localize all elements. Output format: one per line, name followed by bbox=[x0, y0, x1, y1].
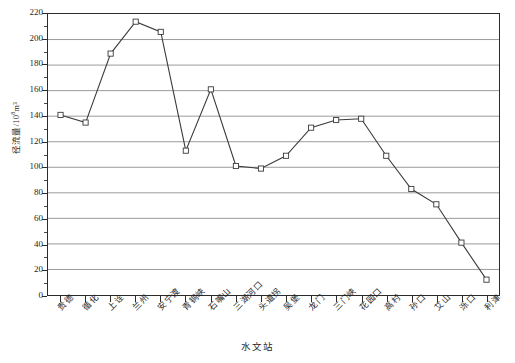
y-tick-label: 80 bbox=[9, 188, 43, 197]
data-point-marker bbox=[434, 202, 439, 207]
y-tick-label: 160 bbox=[9, 85, 43, 94]
y-tick-label: 100 bbox=[9, 162, 43, 171]
data-point-marker bbox=[58, 112, 63, 117]
data-point-marker bbox=[384, 153, 389, 158]
data-point-marker bbox=[108, 51, 113, 56]
data-point-marker bbox=[283, 153, 288, 158]
data-series-runoff bbox=[48, 14, 499, 295]
data-point-marker bbox=[158, 29, 163, 34]
y-tick-label: 180 bbox=[9, 59, 43, 68]
y-tick-label: 60 bbox=[9, 214, 43, 223]
data-point-marker bbox=[133, 19, 138, 24]
data-point-marker bbox=[484, 277, 489, 282]
series-line bbox=[61, 22, 487, 280]
y-tick-mark bbox=[42, 296, 47, 297]
data-point-marker bbox=[334, 117, 339, 122]
y-tick-label: 40 bbox=[9, 240, 43, 249]
y-axis-title-base: 径流量/10 bbox=[11, 115, 21, 154]
data-point-marker bbox=[308, 125, 313, 130]
data-point-marker bbox=[183, 148, 188, 153]
data-point-marker bbox=[208, 87, 213, 92]
y-tick-label: 140 bbox=[9, 111, 43, 120]
runoff-line-chart: 径流量/108m³ 020406080100120140160180200220… bbox=[0, 0, 515, 363]
y-tick-label: 120 bbox=[9, 137, 43, 146]
plot-area bbox=[47, 13, 500, 296]
y-tick-label: 220 bbox=[9, 8, 43, 17]
y-tick-label: 200 bbox=[9, 34, 43, 43]
data-point-marker bbox=[359, 116, 364, 121]
data-point-marker bbox=[459, 240, 464, 245]
y-tick-label: 20 bbox=[9, 265, 43, 274]
data-point-marker bbox=[233, 163, 238, 168]
x-axis-title: 水文站 bbox=[0, 339, 515, 353]
data-point-marker bbox=[83, 120, 88, 125]
y-tick-label: 0 bbox=[9, 291, 43, 300]
data-point-marker bbox=[258, 166, 263, 171]
data-point-marker bbox=[409, 186, 414, 191]
